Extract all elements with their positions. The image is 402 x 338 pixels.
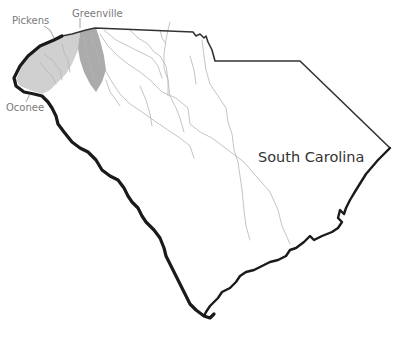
map-svg: Pickens Greenville Oconee South Carolina — [0, 0, 402, 338]
south-carolina-map: Pickens Greenville Oconee South Carolina — [0, 0, 402, 338]
label-oconee: Oconee — [6, 102, 44, 113]
state-area — [14, 28, 390, 318]
label-pickens: Pickens — [12, 15, 49, 26]
label-state: South Carolina — [258, 149, 364, 165]
oconee-leader — [26, 94, 30, 102]
pickens-leader — [44, 26, 54, 38]
label-greenville: Greenville — [72, 8, 123, 19]
